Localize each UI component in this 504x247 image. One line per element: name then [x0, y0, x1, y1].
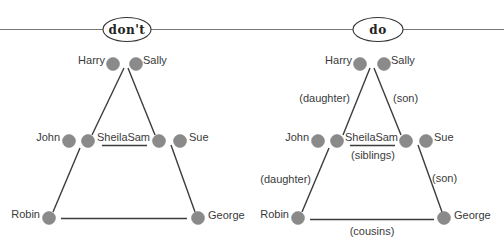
label-sheila: Sheila: [345, 131, 376, 143]
node-sam: [153, 135, 166, 148]
node-sheila: [82, 135, 95, 148]
label-george: George: [208, 209, 245, 221]
edge-sally-sam: [128, 68, 155, 135]
node-robin: [43, 212, 56, 225]
label-sally: Sally: [143, 54, 167, 66]
node-john: [63, 135, 76, 148]
label-sheila: Sheila: [97, 131, 128, 143]
node-sam: [400, 135, 413, 148]
label-sally: Sally: [391, 54, 415, 66]
label-sam: Sam: [127, 131, 150, 143]
node-george: [192, 212, 205, 225]
node-sue: [420, 135, 433, 148]
node-robin: [292, 212, 305, 225]
edge-label-robin-george: (cousins): [350, 225, 395, 237]
node-sue: [174, 135, 187, 148]
label-john: John: [285, 131, 309, 143]
node-harry: [107, 58, 120, 71]
edge-label-sally-sam: (son): [393, 92, 418, 104]
node-sally: [378, 58, 391, 71]
edge-label-sam-george: (son): [432, 172, 457, 184]
label-robin: Robin: [260, 208, 289, 220]
label-sue: Sue: [189, 131, 209, 143]
panel-title: don't: [109, 23, 146, 37]
label-sue: Sue: [434, 131, 454, 143]
edge-label-sheila-robin: (daughter): [260, 173, 311, 185]
panel-title: do: [369, 23, 386, 37]
node-sheila: [331, 135, 344, 148]
panel-do: do Harry Sally John Sheila Sam Sue Robin…: [252, 18, 504, 238]
label-john: John: [36, 131, 60, 143]
edge-harry-sheila: [92, 68, 124, 135]
panel-dont: don't Harry Sally John Sheila Sam Sue Ro…: [0, 18, 252, 225]
family-diagrams: don't Harry Sally John Sheila Sam Sue Ro…: [0, 0, 504, 247]
label-sam: Sam: [375, 131, 398, 143]
node-harry: [354, 58, 367, 71]
edge-sam-george: [171, 145, 195, 212]
label-robin: Robin: [11, 208, 40, 220]
node-sally: [130, 58, 143, 71]
edge-label-harry-sheila: (daughter): [299, 92, 350, 104]
edge-sheila-robin: [53, 148, 80, 212]
label-george: George: [454, 209, 491, 221]
node-john: [312, 135, 325, 148]
edge-label-sheila-sam: (siblings): [351, 149, 395, 161]
label-harry: Harry: [325, 54, 352, 66]
node-george: [438, 212, 451, 225]
label-harry: Harry: [78, 54, 105, 66]
